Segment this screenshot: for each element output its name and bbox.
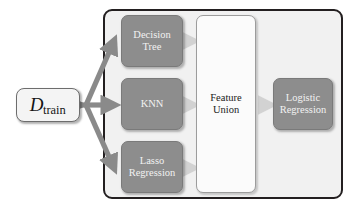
logistic-regression-label: Logistic Regression — [278, 92, 329, 116]
feature-union-label: Feature Union — [208, 92, 244, 116]
node-dataset-train[interactable]: Dtrain — [16, 88, 80, 122]
dataset-label: Dtrain — [28, 94, 69, 115]
dataset-subscript: train — [43, 103, 66, 117]
node-decision-tree[interactable]: Decision Tree — [121, 15, 183, 67]
lasso-regression-label: Lasso Regression — [127, 155, 178, 179]
knn-label: KNN — [139, 98, 166, 110]
diagram-canvas: Dtrain Decision Tree KNN Lasso Regressio… — [0, 0, 350, 208]
decision-tree-label: Decision Tree — [131, 29, 172, 53]
node-lasso-regression[interactable]: Lasso Regression — [121, 141, 183, 193]
node-logistic-regression[interactable]: Logistic Regression — [273, 78, 333, 130]
node-feature-union[interactable]: Feature Union — [196, 15, 256, 193]
node-knn[interactable]: KNN — [121, 78, 183, 130]
dataset-symbol: D — [30, 94, 44, 115]
